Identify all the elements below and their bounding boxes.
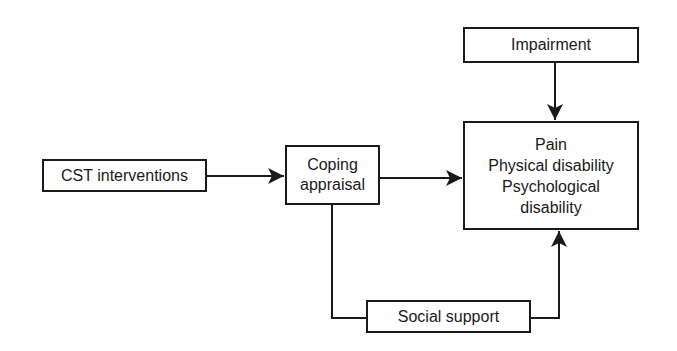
node-cst-interventions: CST interventions bbox=[42, 159, 207, 192]
node-label: Impairment bbox=[511, 35, 591, 55]
node-coping-appraisal: Coping appraisal bbox=[285, 145, 380, 205]
node-label-line: appraisal bbox=[300, 175, 365, 195]
node-label-line: Pain bbox=[535, 134, 567, 155]
node-label-line: Psychological bbox=[502, 176, 600, 197]
line-coping-to-social bbox=[332, 205, 366, 318]
node-impairment: Impairment bbox=[463, 27, 639, 63]
node-label-line: Physical disability bbox=[488, 155, 613, 176]
node-label: CST interventions bbox=[61, 166, 188, 186]
node-label-line: Coping bbox=[307, 155, 358, 175]
node-label-line: disability bbox=[520, 197, 581, 218]
node-social-support: Social support bbox=[366, 300, 531, 333]
node-label: Social support bbox=[398, 307, 499, 327]
arrow-social-to-outcomes bbox=[531, 231, 559, 318]
node-outcomes: Pain Physical disability Psychological d… bbox=[463, 121, 639, 230]
